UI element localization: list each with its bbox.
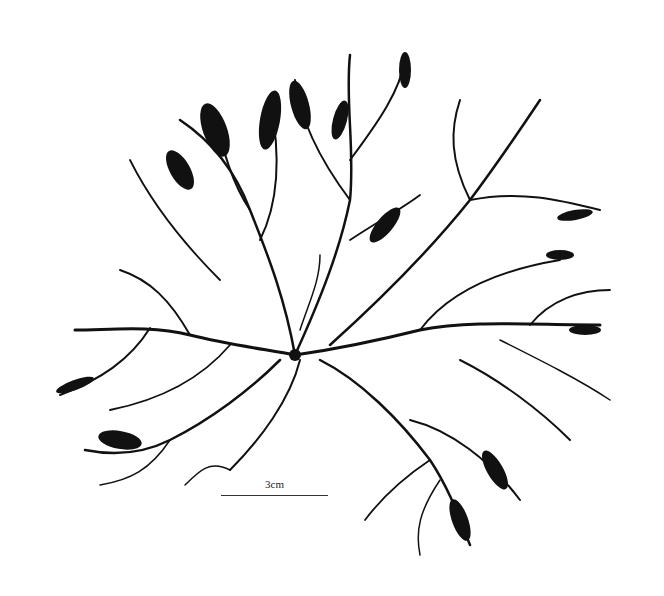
scale-bar-line — [221, 495, 328, 496]
scale-bar-label: 3cm — [221, 478, 328, 490]
seaweed-specimen — [0, 0, 664, 596]
scale-bar-group: 3cm — [221, 478, 328, 496]
